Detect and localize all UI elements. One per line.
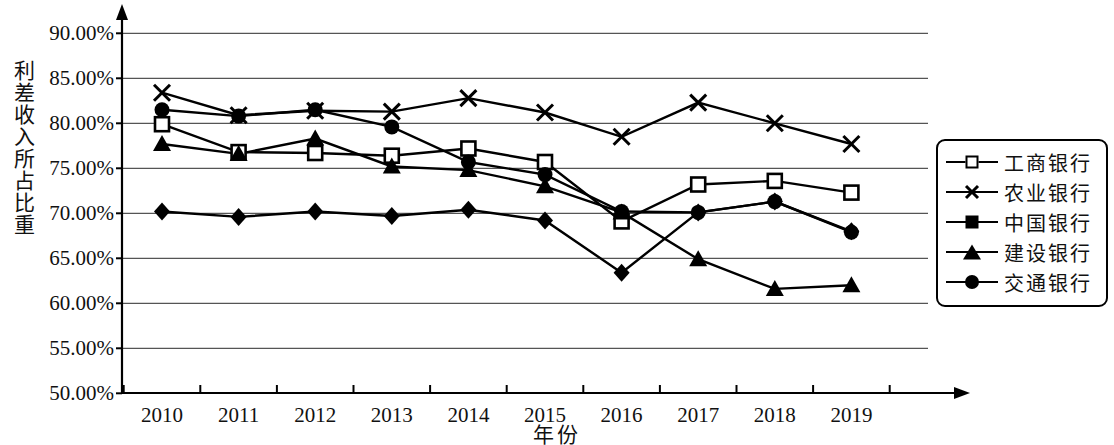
data-point-marker bbox=[231, 109, 246, 124]
series-line bbox=[162, 124, 851, 221]
data-point-marker bbox=[155, 102, 170, 117]
data-point-marker bbox=[768, 174, 782, 188]
legend-marker-filled-triangle-icon bbox=[944, 239, 1000, 265]
data-point-marker bbox=[844, 186, 858, 200]
legend: 工商银行农业银行中国银行建设银行交通银行 bbox=[936, 139, 1108, 307]
data-point-marker bbox=[384, 119, 399, 134]
legend-marker-open-square-icon bbox=[944, 149, 1000, 175]
data-point-marker bbox=[461, 155, 476, 170]
data-point-marker bbox=[231, 208, 247, 226]
data-point-marker bbox=[844, 225, 859, 240]
data-point-marker bbox=[537, 212, 553, 230]
legend-item-5[interactable]: 交通银行 bbox=[944, 267, 1102, 297]
y-axis-arrow bbox=[116, 4, 128, 20]
legend-item-4[interactable]: 建设银行 bbox=[944, 237, 1102, 267]
data-point-marker bbox=[307, 203, 323, 221]
legend-item-2[interactable]: 农业银行 bbox=[944, 177, 1102, 207]
legend-symbol-icon bbox=[966, 156, 979, 169]
legend-symbol-icon bbox=[963, 245, 981, 260]
data-point-marker bbox=[843, 136, 859, 152]
data-point-marker bbox=[691, 205, 706, 220]
legend-item-3[interactable]: 中国银行 bbox=[944, 207, 1102, 237]
data-point-marker bbox=[154, 85, 170, 101]
data-point-marker bbox=[614, 264, 630, 282]
data-point-marker bbox=[767, 194, 782, 209]
data-point-marker bbox=[614, 204, 629, 219]
legend-item-1[interactable]: 工商银行 bbox=[944, 147, 1102, 177]
legend-label: 中国银行 bbox=[1000, 208, 1092, 237]
x-axis-arrow bbox=[954, 387, 970, 399]
data-point-marker bbox=[461, 142, 475, 156]
legend-marker-filled-circle-icon bbox=[944, 269, 1000, 295]
data-point-marker bbox=[153, 135, 171, 151]
legend-label: 建设银行 bbox=[1000, 238, 1092, 267]
legend-symbol-icon bbox=[965, 275, 979, 289]
series-line bbox=[162, 93, 851, 144]
legend-marker-filled-diamond-icon bbox=[944, 209, 1000, 235]
legend-label: 工商银行 bbox=[1000, 148, 1092, 177]
data-point-marker bbox=[308, 102, 323, 117]
data-point-marker bbox=[538, 155, 552, 169]
data-point-marker bbox=[691, 178, 705, 192]
legend-symbol-icon bbox=[966, 216, 979, 229]
series-line bbox=[162, 202, 851, 273]
legend-label: 交通银行 bbox=[1000, 268, 1092, 297]
data-point-marker bbox=[384, 207, 400, 225]
legend-marker-cross-icon bbox=[944, 179, 1000, 205]
data-point-marker bbox=[155, 117, 169, 131]
data-point-marker bbox=[308, 146, 322, 160]
data-point-marker bbox=[690, 95, 706, 111]
line-chart: 利差收入所占比重 年份 90.00%85.00%80.00%75.00%70.0… bbox=[0, 0, 1114, 445]
data-point-marker bbox=[306, 130, 324, 146]
legend-symbol-icon bbox=[964, 184, 981, 201]
data-point-marker bbox=[460, 201, 476, 219]
data-point-marker bbox=[538, 167, 553, 182]
data-point-marker bbox=[614, 129, 630, 145]
data-point-marker bbox=[842, 276, 860, 292]
data-point-marker bbox=[154, 203, 170, 221]
legend-label: 农业银行 bbox=[1000, 178, 1092, 207]
